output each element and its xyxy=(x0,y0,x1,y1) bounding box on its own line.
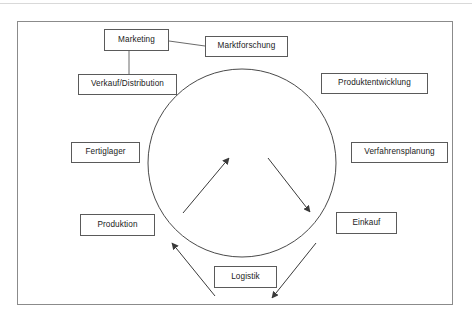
node-verfahrensplanung-label: Verfahrensplanung xyxy=(364,148,434,156)
connector-marketing-to-marktforschung xyxy=(169,41,205,46)
node-verkauf-distribution-label: Verkauf/Distribution xyxy=(91,80,164,88)
node-logistik[interactable]: Logistik xyxy=(214,266,277,288)
node-produktentwicklung-label: Produktentwicklung xyxy=(338,79,411,87)
cycle-arrow-up-right xyxy=(183,158,229,213)
node-verfahrensplanung[interactable]: Verfahrensplanung xyxy=(351,142,448,163)
node-marktforschung-label: Marktforschung xyxy=(218,42,276,50)
node-produktion-label: Produktion xyxy=(97,221,137,229)
node-produktentwicklung[interactable]: Produktentwicklung xyxy=(321,73,428,94)
node-produktion[interactable]: Produktion xyxy=(80,214,155,236)
node-logistik-label: Logistik xyxy=(231,273,260,281)
node-einkauf-label: Einkauf xyxy=(352,219,380,227)
node-fertiglager[interactable]: Fertiglager xyxy=(71,142,140,163)
node-einkauf[interactable]: Einkauf xyxy=(336,212,397,234)
node-fertiglager-label: Fertiglager xyxy=(85,148,125,156)
node-marktforschung[interactable]: Marktforschung xyxy=(205,36,288,57)
node-marketing[interactable]: Marketing xyxy=(104,29,169,51)
cycle-circle xyxy=(148,69,336,257)
node-marketing-label: Marketing xyxy=(118,36,155,44)
diagram-page: Marketing Marktforschung Verkauf/Distrib… xyxy=(0,0,472,320)
node-verkauf-distribution[interactable]: Verkauf/Distribution xyxy=(78,74,177,95)
cycle-arrow-down-left xyxy=(272,243,316,298)
cycle-arrow-down-right xyxy=(268,158,310,212)
